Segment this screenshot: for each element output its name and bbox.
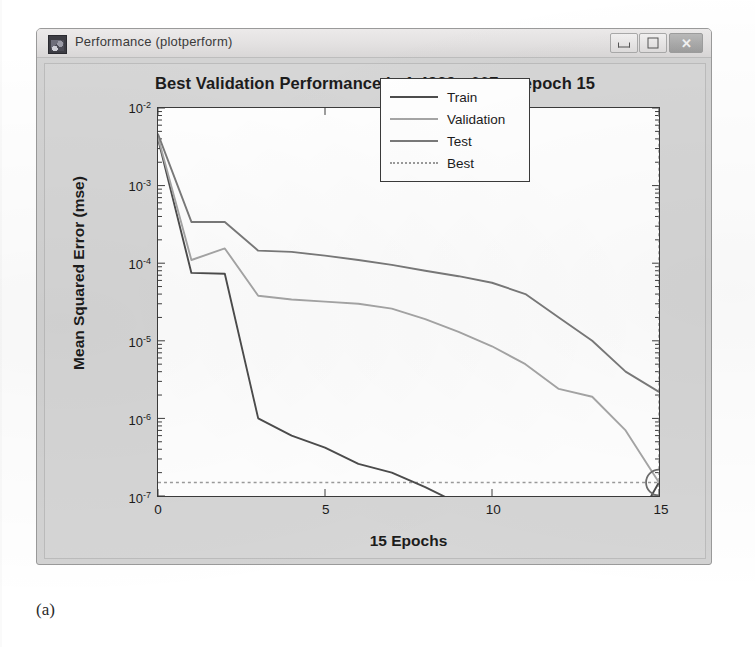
maximize-button[interactable] xyxy=(639,33,667,53)
close-button[interactable]: ✕ xyxy=(669,33,703,53)
figure-window: Performance (plotperform) ✕ Best Validat… xyxy=(36,28,712,565)
legend-item-test[interactable]: Test xyxy=(381,130,529,152)
series-line-train xyxy=(158,139,659,496)
x-tick-label: 15 xyxy=(653,502,668,517)
y-axis-label: Mean Squared Error (mse) xyxy=(70,123,88,423)
legend-label: Test xyxy=(447,134,472,149)
scanned-page: Performance (plotperform) ✕ Best Validat… xyxy=(0,0,755,647)
y-tick-label: 10-3 xyxy=(129,178,151,194)
x-tick-label: 0 xyxy=(154,502,162,517)
x-tick-label: 5 xyxy=(322,502,330,517)
y-tick-label: 10-6 xyxy=(129,412,151,428)
legend-label: Best xyxy=(447,156,474,171)
chart-title: Best Validation Performance is 1.4939e-0… xyxy=(45,74,705,93)
minimize-button[interactable] xyxy=(610,33,638,53)
legend-label: Validation xyxy=(447,112,505,127)
legend-swatch-train xyxy=(390,96,438,98)
legend-item-best[interactable]: Best xyxy=(381,152,529,174)
matlab-figure-icon xyxy=(48,35,67,54)
x-axis-label: 15 Epochs xyxy=(157,532,660,550)
y-tick-label: 10-5 xyxy=(129,334,151,350)
legend-swatch-best xyxy=(390,162,438,164)
y-tick-label: 10-7 xyxy=(129,490,151,506)
y-tick-label: 10-4 xyxy=(129,256,151,272)
legend-item-train[interactable]: Train xyxy=(381,86,529,108)
close-icon: ✕ xyxy=(681,37,692,50)
minimize-icon xyxy=(618,43,630,48)
window-titlebar[interactable]: Performance (plotperform) ✕ xyxy=(37,29,711,58)
window-title: Performance (plotperform) xyxy=(75,34,232,49)
figure-canvas: Best Validation Performance is 1.4939e-0… xyxy=(44,63,706,559)
x-tick-label: 10 xyxy=(486,502,501,517)
legend-item-validation[interactable]: Validation xyxy=(381,108,529,130)
legend-swatch-test xyxy=(390,140,438,142)
legend-swatch-validation xyxy=(390,118,438,120)
legend-label: Train xyxy=(447,90,477,105)
chart-legend[interactable]: TrainValidationTestBest xyxy=(380,78,530,182)
figure-caption: (a) xyxy=(36,600,55,620)
y-tick-label: 10-2 xyxy=(129,100,151,116)
maximize-icon xyxy=(648,38,659,49)
